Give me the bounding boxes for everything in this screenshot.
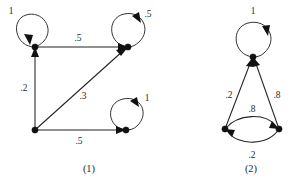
g2-edge-upper-arc-path xyxy=(225,117,276,129)
g2-edge-bottomleft-apex-label: .2 xyxy=(225,90,232,100)
graph-one-group: 1 .5 1 .5 .2 .3 .5 xyxy=(9,6,152,146)
g1-node-top-right xyxy=(125,44,131,50)
g1-self-loop-top-right-label: .5 xyxy=(144,9,151,19)
g1-edge-bottomleft-bottomright-label: .5 xyxy=(75,136,82,146)
g2-node-bottom-right xyxy=(276,126,282,132)
g2-edge-lower-arc-path xyxy=(228,129,279,142)
caption-graph-one: (1) xyxy=(83,163,96,175)
caption-graph-two: (2) xyxy=(245,163,258,175)
g1-self-loop-bottom-right-path xyxy=(111,98,144,130)
g2-edge-upper-arc-label: .8 xyxy=(248,104,255,114)
g2-node-bottom-left xyxy=(222,126,228,132)
g1-self-loop-top-left-label: 1 xyxy=(9,6,14,16)
g2-self-loop-apex-label: 1 xyxy=(251,6,256,16)
g1-self-loop-bottom-right-label: 1 xyxy=(145,93,150,103)
graph-two-group: 1 .2 .8 .8 .2 xyxy=(222,6,282,160)
figure-root: 1 .5 1 .5 .2 .3 .5 xyxy=(0,0,298,186)
g1-edge-bottomleft-topleft-label: .2 xyxy=(20,83,27,93)
g2-edge-lower-arc-label: .2 xyxy=(248,150,255,160)
g1-self-loop-top-left-path xyxy=(16,14,48,47)
g1-node-bottom-right xyxy=(123,127,129,133)
g1-node-top-left xyxy=(32,44,38,50)
g1-self-loop-top-left-arrowhead xyxy=(24,34,33,45)
g2-self-loop-apex-arrowhead xyxy=(262,25,270,36)
g1-node-bottom-left xyxy=(32,127,38,133)
diagram-canvas: 1 .5 1 .5 .2 .3 .5 xyxy=(0,0,298,186)
g2-edge-bottomright-apex-label: .8 xyxy=(273,90,280,100)
g1-edge-topleft-topright-label: .5 xyxy=(74,33,81,43)
g2-node-apex xyxy=(250,54,256,60)
g1-edge-bottomleft-topright-label: .3 xyxy=(79,91,86,101)
